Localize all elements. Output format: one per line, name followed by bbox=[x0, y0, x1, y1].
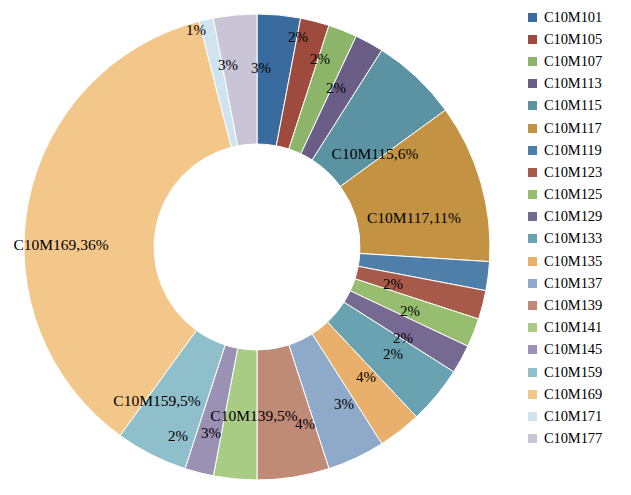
slice-data-label: 2% bbox=[383, 276, 403, 293]
legend-swatch-icon bbox=[528, 146, 537, 155]
legend-swatch-icon bbox=[528, 57, 537, 66]
legend-item-label: C10M113 bbox=[544, 75, 602, 92]
legend-item: C10M137 bbox=[528, 272, 631, 294]
legend-item: C10M169 bbox=[528, 383, 631, 405]
slice-data-label: 2% bbox=[383, 346, 403, 363]
legend-item-label: C10M133 bbox=[544, 230, 602, 247]
legend-item: C10M171 bbox=[528, 405, 631, 427]
legend-item: C10M141 bbox=[528, 317, 631, 339]
legend-item-label: C10M105 bbox=[544, 31, 602, 48]
slice-data-label: 4% bbox=[356, 369, 376, 386]
slice-data-label: C10M159,5% bbox=[113, 392, 200, 410]
legend-swatch-icon bbox=[528, 390, 537, 399]
legend-item: C10M145 bbox=[528, 339, 631, 361]
slice-data-label: 3% bbox=[251, 60, 271, 77]
doughnut-chart: 3%2%2%2%C10M115,6%C10M117,11%2%2%2%2%4%3… bbox=[0, 0, 520, 495]
legend-item: C10M135 bbox=[528, 250, 631, 272]
chart-legend: C10M101C10M105C10M107C10M113C10M115C10M1… bbox=[528, 6, 631, 450]
legend-item: C10M139 bbox=[528, 294, 631, 316]
legend-swatch-icon bbox=[528, 323, 537, 332]
slice-data-label: 1% bbox=[186, 22, 206, 39]
legend-item-label: C10M137 bbox=[544, 275, 602, 292]
legend-item-label: C10M177 bbox=[544, 430, 602, 447]
legend-item: C10M133 bbox=[528, 228, 631, 250]
legend-item: C10M129 bbox=[528, 206, 631, 228]
legend-item-label: C10M141 bbox=[544, 319, 602, 336]
legend-item: C10M117 bbox=[528, 117, 631, 139]
slice-data-label: 2% bbox=[288, 29, 308, 46]
legend-swatch-icon bbox=[528, 301, 537, 310]
slice-data-label: 2% bbox=[393, 330, 413, 347]
legend-swatch-icon bbox=[528, 124, 537, 133]
legend-item-label: C10M139 bbox=[544, 297, 602, 314]
legend-swatch-icon bbox=[528, 434, 537, 443]
legend-item-label: C10M101 bbox=[544, 9, 602, 26]
legend-item-label: C10M145 bbox=[544, 341, 602, 358]
slice-data-label: 2% bbox=[326, 80, 346, 97]
slice-data-label: C10M139,5% bbox=[210, 407, 297, 425]
legend-swatch-icon bbox=[528, 168, 537, 177]
legend-swatch-icon bbox=[528, 13, 537, 22]
legend-item-label: C10M125 bbox=[544, 186, 602, 203]
legend-item-label: C10M135 bbox=[544, 253, 602, 270]
legend-item: C10M159 bbox=[528, 361, 631, 383]
legend-item-label: C10M115 bbox=[544, 97, 602, 114]
legend-swatch-icon bbox=[528, 190, 537, 199]
legend-swatch-icon bbox=[528, 412, 537, 421]
legend-item: C10M115 bbox=[528, 95, 631, 117]
legend-item-label: C10M107 bbox=[544, 53, 602, 70]
legend-item: C10M105 bbox=[528, 28, 631, 50]
legend-item: C10M125 bbox=[528, 184, 631, 206]
legend-swatch-icon bbox=[528, 368, 537, 377]
slice-data-label: 4% bbox=[295, 416, 315, 433]
legend-swatch-icon bbox=[528, 212, 537, 221]
slice-data-label: C10M117,11% bbox=[367, 209, 461, 227]
legend-swatch-icon bbox=[528, 257, 537, 266]
legend-item-label: C10M171 bbox=[544, 408, 602, 425]
legend-item: C10M177 bbox=[528, 428, 631, 450]
slice-data-label: 2% bbox=[400, 303, 420, 320]
legend-item-label: C10M117 bbox=[544, 120, 602, 137]
legend-item: C10M123 bbox=[528, 161, 631, 183]
legend-item-label: C10M129 bbox=[544, 208, 602, 225]
slice-data-label: C10M169,36% bbox=[13, 236, 108, 254]
slice-data-label: 3% bbox=[334, 396, 354, 413]
legend-item-label: C10M123 bbox=[544, 164, 602, 181]
slice-data-label: 2% bbox=[310, 51, 330, 68]
slice-data-label: 2% bbox=[168, 428, 188, 445]
slice-data-label: C10M115,6% bbox=[332, 145, 419, 163]
legend-item: C10M119 bbox=[528, 139, 631, 161]
legend-swatch-icon bbox=[528, 345, 537, 354]
legend-swatch-icon bbox=[528, 279, 537, 288]
legend-item-label: C10M159 bbox=[544, 364, 602, 381]
slice-data-label: 3% bbox=[218, 57, 238, 74]
legend-item: C10M107 bbox=[528, 50, 631, 72]
legend-item: C10M113 bbox=[528, 73, 631, 95]
legend-swatch-icon bbox=[528, 35, 537, 44]
legend-item-label: C10M119 bbox=[544, 142, 602, 159]
legend-item-label: C10M169 bbox=[544, 386, 602, 403]
legend-item: C10M101 bbox=[528, 6, 631, 28]
legend-swatch-icon bbox=[528, 101, 537, 110]
legend-swatch-icon bbox=[528, 79, 537, 88]
legend-swatch-icon bbox=[528, 234, 537, 243]
slice-data-label: 3% bbox=[201, 425, 221, 442]
